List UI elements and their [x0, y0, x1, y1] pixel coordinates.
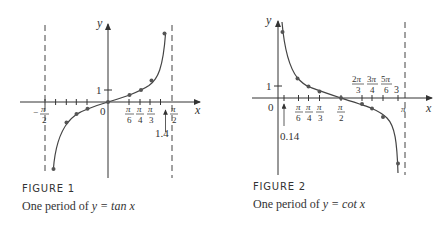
- svg-text:4: 4: [307, 113, 312, 123]
- svg-text:π: π: [401, 104, 406, 114]
- figure-1-caption: One period of y = tan x: [22, 199, 135, 214]
- x-tick-labels: − π 2 π 6 π 4 π 3 π 2: [33, 104, 178, 125]
- figure-1-chart: 1 y x 0 − π 2 π 6 π 4 π 3 π 2: [20, 16, 201, 178]
- svg-text:2: 2: [172, 115, 177, 125]
- figure-2-caption-math: y = cot x: [323, 197, 365, 211]
- origin-label: 0: [100, 105, 106, 117]
- tan-points: [52, 32, 167, 172]
- x-axis-label: x: [194, 103, 201, 117]
- tick-label-3: 3: [394, 84, 399, 95]
- y-tick-label-1: 1: [96, 84, 102, 96]
- figure-2-caption: One period of y = cot x: [253, 197, 365, 212]
- svg-text:3: 3: [318, 113, 323, 123]
- svg-text:π: π: [126, 104, 131, 114]
- figure-1-caption-math: y = tan x: [92, 199, 135, 213]
- annotation-1-4: 1.4: [155, 127, 169, 139]
- svg-text:π: π: [171, 104, 176, 114]
- figure-1-label: FIGURE 1: [22, 183, 75, 194]
- figure-1-caption-prefix: One period of: [22, 199, 92, 213]
- svg-text:6: 6: [296, 113, 301, 123]
- origin-label: 0: [268, 101, 274, 113]
- svg-text:π: π: [338, 102, 343, 112]
- svg-text:2: 2: [339, 113, 344, 123]
- svg-text:π: π: [41, 104, 46, 114]
- svg-text:3: 3: [356, 85, 361, 95]
- y-tick-label-1: 1: [266, 80, 272, 92]
- svg-text:π: π: [148, 104, 153, 114]
- svg-text:6: 6: [384, 85, 389, 95]
- svg-text:3: 3: [149, 115, 154, 125]
- annotation-0-14: 0.14: [280, 130, 300, 142]
- svg-text:π: π: [296, 102, 301, 112]
- svg-text:π: π: [317, 102, 322, 112]
- x-axis-label: x: [425, 101, 432, 115]
- y-axis-label: y: [265, 13, 272, 27]
- svg-text:4: 4: [138, 115, 143, 125]
- svg-text:2: 2: [42, 115, 47, 125]
- y-axis-label: y: [96, 16, 103, 30]
- svg-text:−: −: [33, 107, 38, 117]
- figure-2-label: FIGURE 2: [253, 181, 306, 192]
- svg-text:6: 6: [127, 115, 132, 125]
- svg-text:2π: 2π: [352, 74, 362, 84]
- figure-2-chart: 1 y x 0 π 6 π 4 π 3 π 2 2π 3 3π: [252, 13, 432, 175]
- svg-text:π: π: [137, 104, 142, 114]
- svg-text:5π: 5π: [381, 74, 391, 84]
- svg-text:3π: 3π: [367, 74, 377, 84]
- svg-text:π: π: [306, 102, 311, 112]
- svg-text:4: 4: [370, 85, 375, 95]
- figure-2-caption-prefix: One period of: [253, 197, 323, 211]
